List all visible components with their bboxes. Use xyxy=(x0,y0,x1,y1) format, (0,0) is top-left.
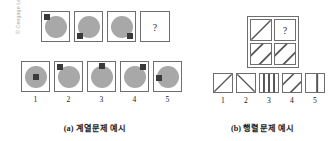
matrix-option-box-1[interactable] xyxy=(213,73,233,93)
series-option-label-4: 4 xyxy=(133,95,137,104)
panel-b-caption: (b) 행렬문제 예시 xyxy=(190,121,335,133)
matrix-option-label-2: 2 xyxy=(244,96,248,105)
series-option-1[interactable]: 1 xyxy=(21,61,50,104)
series-stem-box-2 xyxy=(74,11,103,42)
dark-square-marker xyxy=(140,64,146,70)
panel-a-series-problem: ? 1 2 3 4 5 xyxy=(0,0,190,141)
matrix-option-label-1: 1 xyxy=(221,96,225,105)
series-options-row: 1 2 3 4 5 xyxy=(21,61,182,104)
series-option-label-1: 1 xyxy=(34,95,38,104)
figure-root: © Cengage Learning ? 1 xyxy=(0,0,335,141)
matrix-option-box-5[interactable] xyxy=(305,73,325,93)
series-option-4[interactable]: 4 xyxy=(120,61,149,104)
stripe-pattern-vertical-single xyxy=(306,74,324,92)
matrix-options-row: 1 2 3 4 5 xyxy=(213,73,325,105)
series-option-box-1[interactable] xyxy=(21,61,50,92)
stripe-pattern-vertical-triple xyxy=(260,74,278,92)
matrix-option-5[interactable]: 5 xyxy=(305,73,325,105)
series-option-3[interactable]: 3 xyxy=(87,61,116,104)
series-option-label-3: 3 xyxy=(100,95,104,104)
matrix-stem-cell-2-question: ? xyxy=(274,19,296,41)
series-option-label-2: 2 xyxy=(67,95,71,104)
series-stem-cell-4-question: ? xyxy=(140,11,170,42)
matrix-option-2[interactable]: 2 xyxy=(236,73,256,105)
stripe-pattern-diagonal-up-double xyxy=(283,74,301,92)
series-option-box-3[interactable] xyxy=(87,61,116,92)
stripe-pattern-diagonal-up-double xyxy=(251,44,271,64)
series-stem-box-4: ? xyxy=(140,11,170,42)
panel-a-caption: (a) 계열문제 예시 xyxy=(0,121,190,133)
series-option-label-5: 5 xyxy=(166,95,170,104)
matrix-stem-grid: ? xyxy=(247,16,299,68)
matrix-stem-cell-3 xyxy=(250,43,272,65)
series-option-5[interactable]: 5 xyxy=(153,61,182,104)
dark-square-marker xyxy=(44,14,50,20)
stripe-pattern-diagonal-up-single xyxy=(251,20,271,40)
series-option-box-2[interactable] xyxy=(54,61,83,92)
gray-circle-shape xyxy=(91,66,113,88)
matrix-option-1[interactable]: 1 xyxy=(213,73,233,105)
dark-square-marker xyxy=(77,33,83,39)
series-question-mark: ? xyxy=(141,21,169,32)
series-stem-cell-2 xyxy=(74,11,103,42)
series-stem-box-1 xyxy=(41,11,70,42)
series-option-box-5[interactable] xyxy=(153,61,182,92)
stripe-pattern-diagonal-down-single xyxy=(237,74,255,92)
series-option-box-4[interactable] xyxy=(120,61,149,92)
series-stem-row: ? xyxy=(41,11,170,42)
series-stem-box-3 xyxy=(107,11,136,42)
dark-square-marker xyxy=(33,74,39,80)
matrix-question-mark: ? xyxy=(275,25,295,36)
stripe-pattern-diagonal-up-single xyxy=(214,74,232,92)
panel-b-matrix-problem: ? 1 2 3 4 5 xyxy=(190,0,335,141)
stripe-pattern-diagonal-up-double xyxy=(275,44,295,64)
matrix-option-box-3[interactable] xyxy=(259,73,279,93)
matrix-option-3[interactable]: 3 xyxy=(259,73,279,105)
matrix-option-label-4: 4 xyxy=(290,96,294,105)
matrix-stem-cell-4 xyxy=(274,43,296,65)
series-stem-cell-3 xyxy=(107,11,136,42)
matrix-option-box-4[interactable] xyxy=(282,73,302,93)
dark-square-marker xyxy=(127,33,133,39)
dark-square-marker xyxy=(156,75,162,81)
matrix-option-4[interactable]: 4 xyxy=(282,73,302,105)
matrix-option-box-2[interactable] xyxy=(236,73,256,93)
dark-square-marker xyxy=(99,63,105,69)
dark-square-marker xyxy=(57,64,63,70)
matrix-option-label-3: 3 xyxy=(267,96,271,105)
matrix-option-label-5: 5 xyxy=(313,96,317,105)
series-stem-cell-1 xyxy=(41,11,70,42)
series-option-2[interactable]: 2 xyxy=(54,61,83,104)
matrix-stem-cell-1 xyxy=(250,19,272,41)
